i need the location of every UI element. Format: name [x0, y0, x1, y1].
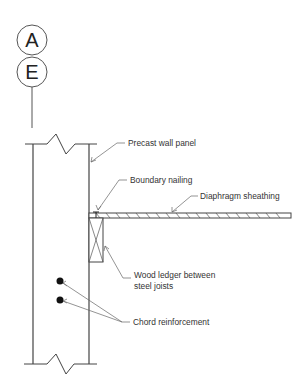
- top-break-line: [25, 134, 97, 154]
- label-boundary-nailing: Boundary nailing: [130, 175, 192, 185]
- label-diaphragm-sheathing: Diaphragm sheathing: [200, 191, 280, 201]
- grid-bubble-e: E: [17, 57, 47, 87]
- leader-precast-wall: [91, 143, 125, 162]
- leader-chord-1: [63, 283, 130, 322]
- leader-boundary-nailing: [98, 180, 127, 210]
- grid-bubble-a: A: [17, 25, 47, 55]
- label-wood-ledger-1: Wood ledger between: [134, 270, 215, 280]
- bottom-break-line: [24, 354, 97, 374]
- label-chord-reinforcement: Chord reinforcement: [133, 317, 209, 327]
- label-wood-ledger-2: steel joists: [134, 281, 173, 291]
- label-precast-wall-panel: Precast wall panel: [128, 138, 196, 148]
- leader-wood-ledger: [105, 246, 131, 278]
- leader-chord-2: [63, 301, 122, 322]
- leader-diaphragm-sheathing: [172, 196, 198, 212]
- chord-bar-2: [57, 297, 64, 304]
- chord-bar-1: [57, 278, 64, 285]
